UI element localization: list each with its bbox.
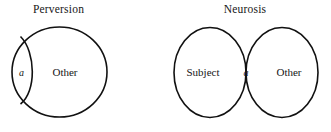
region-label-other-perversion: Other [52,66,77,78]
panel-perversion: Perversion a Other [0,0,165,132]
figure-root: Perversion a Other Neurosis Subject a Ot… [0,0,331,132]
region-label-subject-neurosis: Subject [187,66,220,78]
region-label-object-a-neurosis: a [244,67,249,78]
region-label-object-a-perversion: a [19,67,24,78]
neurosis-diagram: Subject a Other [165,0,331,132]
region-label-other-neurosis: Other [276,66,301,78]
perversion-diagram: a Other [0,0,165,132]
panel-neurosis: Neurosis Subject a Other [165,0,331,132]
